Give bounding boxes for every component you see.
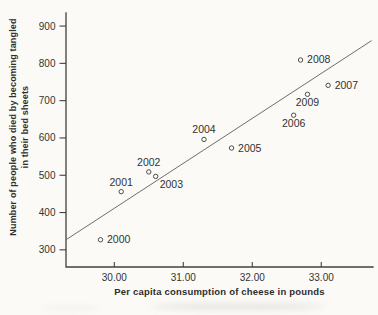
scan-artifact <box>40 306 100 311</box>
data-point-2008 <box>298 58 302 62</box>
data-point-label-2009: 2009 <box>296 96 320 108</box>
y-tick-label: 900 <box>39 21 56 32</box>
data-point-2003 <box>153 174 157 178</box>
y-axis-title: Number of people who died by becoming ta… <box>7 0 31 257</box>
x-tick-label: 33.00 <box>309 272 334 283</box>
y-axis-title-line1: Number of people who died by becoming ta… <box>7 0 19 257</box>
data-point-label-2005: 2005 <box>238 142 262 154</box>
data-point-2007 <box>326 83 330 87</box>
scatter-plot-figure: 30040050060070080090030.0031.0032.0033.0… <box>0 0 378 315</box>
data-point-2005 <box>229 146 233 150</box>
y-tick-label: 300 <box>39 244 56 255</box>
data-point-label-2007: 2007 <box>335 79 359 91</box>
x-tick-label: 31.00 <box>171 272 196 283</box>
data-point-label-2003: 2003 <box>160 178 184 190</box>
x-axis-title: Per capita consumption of cheese in poun… <box>66 286 373 297</box>
data-point-label-2006: 2006 <box>282 117 306 129</box>
y-axis-title-line2: in their bed sheets <box>19 0 31 257</box>
y-tick-label: 400 <box>39 207 56 218</box>
trend-line <box>66 41 372 240</box>
data-point-2001 <box>119 189 123 193</box>
data-point-label-2000: 2000 <box>107 233 131 245</box>
x-tick-label: 32.00 <box>240 272 265 283</box>
scan-artifact <box>150 303 325 310</box>
x-tick-label: 30.00 <box>102 272 127 283</box>
y-tick-label: 700 <box>39 95 56 106</box>
data-point-label-2008: 2008 <box>307 53 331 65</box>
data-point-2004 <box>202 137 206 141</box>
y-tick-label: 600 <box>39 132 56 143</box>
y-tick-label: 500 <box>39 170 56 181</box>
data-point-label-2001: 2001 <box>110 176 134 188</box>
y-tick-label: 800 <box>39 58 56 69</box>
chart-canvas: 30040050060070080090030.0031.0032.0033.0… <box>0 0 378 315</box>
data-point-label-2004: 2004 <box>192 123 216 135</box>
data-point-2002 <box>147 170 151 174</box>
data-point-2000 <box>98 238 102 242</box>
data-point-label-2002: 2002 <box>137 156 161 168</box>
